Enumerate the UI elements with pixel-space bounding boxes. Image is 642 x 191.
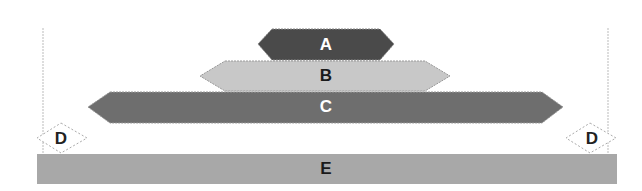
level-a-label: A [306, 30, 346, 60]
level-c-label: C [306, 92, 346, 122]
level-b-label: B [306, 61, 346, 91]
level-d-right-label: D [572, 124, 612, 154]
level-e-label: E [306, 154, 346, 184]
level-d-left-label: D [41, 124, 81, 154]
